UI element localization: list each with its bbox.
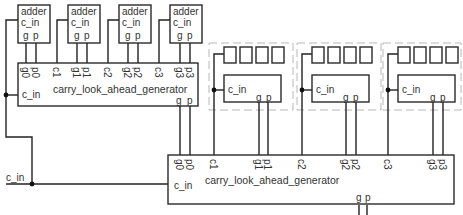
generator-g-label: g [356,192,362,203]
top-adder-0[interactable]: adder c_in g p [18,5,50,43]
group-block-3[interactable]: c_in g p [398,47,458,103]
mini-adder [446,47,458,63]
group-cin-label: c_in [402,84,420,95]
adder-cin-label: c_in [21,17,39,28]
pin-label-p2: p2 [350,159,361,171]
pin-label-p2: p2 [132,67,143,79]
generator-title: carry_look_ahead_generator [53,83,188,95]
group-g-label: g [343,92,349,103]
junction-dot [212,88,217,93]
mini-adder [398,47,410,63]
group-cin-label: c_in [316,84,334,95]
pin-label-c1: c1 [208,159,219,170]
wire-c2-group2 [302,54,312,155]
group-block-2[interactable]: c_in g p [312,47,372,103]
generator-p-label: p [187,95,193,106]
junction-dot [4,93,9,98]
group-cin-label: c_in [228,84,246,95]
wire-c3-to-adder4 [159,20,170,63]
adder-title: adder [21,6,47,17]
wire-c1-group1 [214,54,224,155]
top-adder-2[interactable]: adder c_in g p [119,5,151,43]
junction-dot [300,88,305,93]
adder-p-label: p [187,30,193,41]
adder-g-label: g [74,30,80,41]
generator-title: carry_look_ahead_generator [205,174,340,186]
pin-label-c2: c2 [296,159,307,170]
pin-label-c3: c3 [153,67,164,78]
group-g-label: g [256,92,262,103]
adder-cin-label: c_in [71,17,89,28]
pin-label-c2: c2 [102,67,113,78]
adder-cin-label: c_in [122,17,140,28]
external-cin-label: c_in [6,172,24,183]
pin-label-g0: g0 [20,67,31,79]
adder-title: adder [71,6,97,17]
pin-label-p1: p1 [81,67,92,79]
generator-cin-label: c_in [174,180,192,191]
mini-adder [414,47,426,63]
mini-adder [224,47,236,63]
adder-title: adder [173,6,199,17]
pin-label-p3: p3 [437,159,448,171]
mini-adder [312,47,324,63]
pin-label-p1: p1 [262,159,273,171]
adder-p-label: p [135,30,141,41]
mini-adder [240,47,252,63]
junction-dot [386,88,391,93]
generator-cin-label: c_in [22,89,40,100]
mini-adder [256,47,268,63]
group-block-1[interactable]: c_in g p [224,47,284,103]
pin-label-c1: c1 [51,67,62,78]
pin-label-g1: g1 [71,67,82,79]
pin-label-p3: p3 [184,67,195,79]
top-adder-3[interactable]: adder c_in g p [170,5,202,43]
junction-dot [30,182,35,187]
adder-p-label: p [84,30,90,41]
adder-title: adder [122,6,148,17]
pin-label-g0: g0 [174,159,185,171]
group-g-label: g [430,92,436,103]
mini-adder [272,47,284,63]
mini-adder [328,47,340,63]
adder-cin-label: c_in [173,17,191,28]
pin-label-g2: g2 [122,67,133,79]
diagram-canvas: adder c_in g p adder c_in g p adder c_in… [0,0,463,215]
pin-label-g3: g3 [427,159,438,171]
bottom-carry-look-ahead-generator[interactable]: g0 p0 c1 g1 p1 c2 g2 p2 c3 g3 p3 c_in ca… [168,155,454,204]
wire-c1-to-adder2 [57,20,68,63]
wire-c2-to-adder3 [108,20,119,63]
generator-p-label: p [365,192,371,203]
pin-label-p0: p0 [184,159,195,171]
pin-label-g3: g3 [174,67,185,79]
top-carry-look-ahead-generator[interactable]: g0 p0 c1 g1 p1 c2 g2 p2 c3 g3 p3 c_in ca… [18,63,198,106]
adder-g-label: g [177,30,183,41]
wire-c3-group3 [388,54,398,155]
mini-adder [344,47,356,63]
group-p-label: p [266,92,272,103]
generator-g-label: g [176,95,182,106]
mini-adder [430,47,442,63]
pin-label-c3: c3 [382,159,393,170]
top-adder-1[interactable]: adder c_in g p [68,5,100,43]
pin-label-p0: p0 [30,67,41,79]
mini-adder [360,47,372,63]
adder-p-label: p [33,30,39,41]
group-p-label: p [440,92,446,103]
adder-g-label: g [23,30,29,41]
pin-label-g2: g2 [340,159,351,171]
group-p-label: p [353,92,359,103]
adder-g-label: g [125,30,131,41]
